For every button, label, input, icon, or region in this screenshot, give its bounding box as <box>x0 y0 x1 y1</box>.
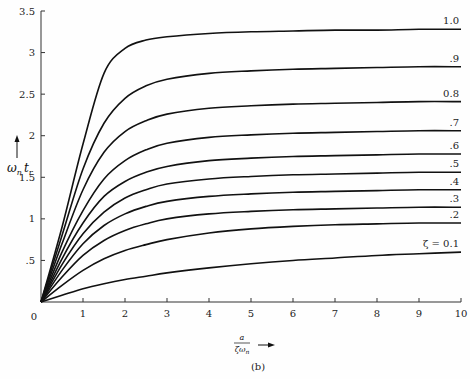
curve-labels: 1.0.90.8.7.6.5.4.3.2ζ = 0.1 <box>423 15 459 249</box>
y-tick-label: 1 <box>29 213 35 224</box>
curve-zeta-0.2 <box>41 223 461 302</box>
x-label-denominator: ζω <box>235 345 246 354</box>
x-axis-label: a ζωn <box>234 333 275 355</box>
curve-label: .4 <box>449 176 459 187</box>
x-axis-arrowhead-icon <box>268 343 275 348</box>
rise-time-chart: 12345678910.511.522.533.5 1.0.90.8.7.6.5… <box>0 0 470 379</box>
y-axis-label: ωntr <box>7 135 34 177</box>
curve-label: .7 <box>449 117 459 128</box>
y-tick-label: 3 <box>29 47 35 58</box>
curve-label: .6 <box>449 140 459 151</box>
y-label-omega: ω <box>7 161 17 175</box>
figure-caption: (b) <box>251 361 265 372</box>
x-tick-label: 2 <box>122 308 128 319</box>
x-label-den-sub: n <box>245 348 249 355</box>
x-tick-label: 5 <box>248 308 254 319</box>
x-tick-label: 4 <box>206 308 212 319</box>
curves <box>41 29 461 302</box>
y-label-sub-n: n <box>17 168 22 177</box>
x-tick-label: 7 <box>332 308 338 319</box>
x-tick-label: 8 <box>374 308 380 319</box>
y-tick-label: 3.5 <box>19 6 35 17</box>
curve-label: 1.0 <box>443 15 459 26</box>
y-tick-label: 2 <box>29 130 35 141</box>
svg-text:ζωn: ζωn <box>235 345 250 355</box>
y-tick-label: 2.5 <box>19 89 35 100</box>
curve-zeta-0.5 <box>41 172 461 302</box>
curve-label: .3 <box>449 193 459 204</box>
x-label-numerator: a <box>240 333 245 342</box>
curve-label: .9 <box>449 53 459 64</box>
x-tick-label: 1 <box>80 308 86 319</box>
svg-text:ωntr: ωntr <box>7 161 34 177</box>
curve-label: ζ = 0.1 <box>423 238 459 249</box>
curve-zeta-0.7 <box>41 131 461 302</box>
y-tick-label: .5 <box>25 255 35 266</box>
x-tick-label: 10 <box>455 308 468 319</box>
x-tick-label: 9 <box>416 308 422 319</box>
y-axis-arrowhead-icon <box>15 135 20 142</box>
curve-zeta-0.4 <box>41 190 461 302</box>
curve-label: .2 <box>449 209 459 220</box>
origin-label: 0 <box>31 311 37 322</box>
curve-label: .5 <box>449 158 459 169</box>
curve-label: 0.8 <box>443 88 459 99</box>
x-tick-label: 3 <box>164 308 170 319</box>
x-tick-label: 6 <box>290 308 296 319</box>
